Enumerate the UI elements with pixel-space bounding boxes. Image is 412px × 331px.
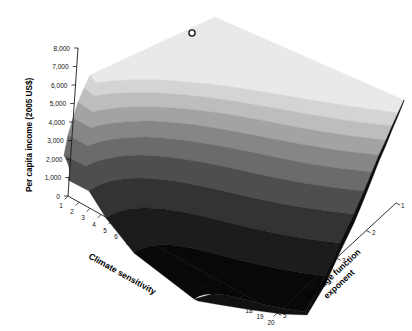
x-tick-label: 4 xyxy=(92,221,96,228)
x-tick-label: 20 xyxy=(267,319,275,326)
x-tick-label: 16 xyxy=(223,294,231,301)
x-tick-label: 6 xyxy=(114,233,118,240)
z-axis-title: Per capita income (2005 US$) xyxy=(25,78,34,192)
x-tick-label: 19 xyxy=(256,313,264,320)
x-tick-label: 18 xyxy=(245,307,253,314)
z-tick-label: 1,000 xyxy=(45,174,62,181)
z-tick-label: 6,000 xyxy=(51,82,68,89)
x-tick-label: 12 xyxy=(179,270,187,277)
y-tick-label: 1 xyxy=(401,202,405,209)
z-tick-label: 4,000 xyxy=(48,119,65,126)
x-tick-label: 7 xyxy=(125,239,129,246)
z-tick-label: 2,000 xyxy=(46,156,63,163)
x-tick-label: 17 xyxy=(234,301,242,308)
x-tick-label: 15 xyxy=(212,288,220,295)
x-tick-label: 3 xyxy=(81,214,85,221)
plot-canvas: 8,000 7,000 6,000 5,000 4,000 3,000 2,00… xyxy=(0,0,412,331)
x-tick-label: 5 xyxy=(103,227,107,234)
z-tick-label: 7,000 xyxy=(52,63,69,70)
z-tick-label: 3,000 xyxy=(47,137,64,144)
z-tick-label: 5,000 xyxy=(50,100,67,107)
x-tick-label: 10 xyxy=(157,258,165,265)
z-tick-label: 8,000 xyxy=(53,45,70,52)
surface-plot-figure: 8,000 7,000 6,000 5,000 4,000 3,000 2,00… xyxy=(0,0,412,331)
reference-point-marker xyxy=(189,30,195,36)
x-tick-label: 11 xyxy=(169,264,176,271)
x-tick-label: 8 xyxy=(136,245,140,252)
x-tick-label: 9 xyxy=(147,251,151,258)
y-tick-label: 5 xyxy=(283,312,287,319)
x-tick-label: 2 xyxy=(70,208,74,215)
x-tick-label: 13 xyxy=(190,276,198,283)
x-tick-label: 14 xyxy=(201,282,209,289)
z-tick-label: 0 xyxy=(56,193,60,200)
y-tick-label: 2 xyxy=(372,229,376,236)
x-tick-label: 1 xyxy=(59,202,63,209)
